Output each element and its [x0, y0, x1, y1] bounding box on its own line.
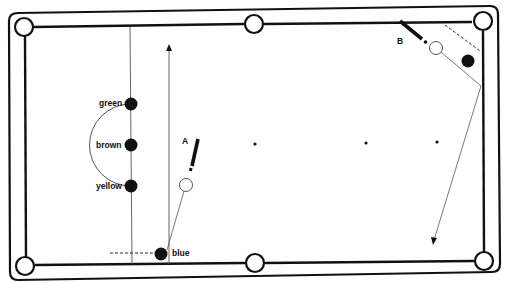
pocket-bottom-right — [475, 252, 493, 270]
spot-black-1 — [364, 141, 367, 144]
pocket-bottom-left — [16, 257, 34, 275]
cue-ball-b-rebound — [434, 86, 481, 240]
ball-label-yellow: yellow — [96, 181, 122, 191]
table-spots — [253, 140, 438, 145]
shot-a: A — [167, 136, 198, 250]
ball-brown: brown — [96, 139, 138, 152]
cue-ball-a — [180, 179, 193, 192]
object-ball-b — [462, 55, 475, 68]
ball-label-green: green — [99, 98, 122, 108]
arrow-shot-a-up — [166, 44, 172, 264]
ball-label-blue: blue — [172, 248, 190, 258]
spot-pink — [253, 142, 256, 145]
cue-ball-b — [430, 42, 443, 55]
cue-ball-b-path-to-cushion — [441, 52, 481, 86]
dashed-guide-b — [445, 25, 480, 51]
pocket-top-left — [15, 18, 33, 36]
cue-stick-a — [192, 139, 198, 166]
ball-green: green — [99, 98, 138, 111]
spot-black-2 — [435, 140, 438, 143]
pocket-bottom-middle — [246, 254, 264, 272]
shot-a-label: A — [182, 136, 188, 146]
ball-label-brown: brown — [96, 140, 122, 150]
ball-yellow: yellow — [96, 180, 138, 193]
shot-b-label: B — [397, 36, 403, 46]
pocket-top-middle — [245, 15, 263, 33]
shot-b: B — [397, 21, 481, 245]
pocket-top-right — [474, 12, 492, 30]
snooker-table-diagram: green brown yellow blue A B — [0, 0, 506, 283]
ball-blue: blue — [110, 248, 190, 261]
cue-ball-a-path — [167, 191, 184, 250]
